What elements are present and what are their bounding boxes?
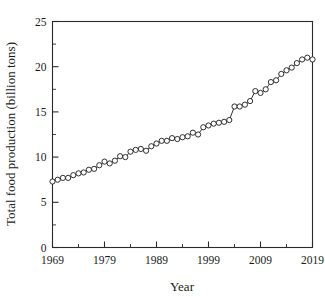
x-tick-label: 1989 — [145, 254, 168, 266]
y-tick-label: 20 — [35, 61, 47, 73]
y-tick-label: 25 — [35, 16, 47, 28]
data-point-marker — [71, 173, 76, 178]
data-point-marker — [66, 175, 71, 180]
y-tick-label: 10 — [35, 151, 47, 163]
data-point-marker — [92, 166, 97, 171]
y-tick-label: 15 — [35, 106, 47, 118]
data-point-marker — [144, 148, 149, 153]
data-point-marker — [216, 120, 221, 125]
food-production-line-chart: 0510152025 196919791989199920092019 Year… — [0, 0, 325, 297]
series-line-total-food-production — [53, 58, 313, 182]
data-point-marker — [149, 144, 154, 149]
data-point-marker — [284, 68, 289, 73]
x-tick-label: 1979 — [93, 254, 116, 266]
data-point-marker — [237, 104, 242, 109]
data-point-marker — [50, 179, 55, 184]
series-markers — [50, 55, 315, 184]
data-point-marker — [242, 102, 247, 107]
data-point-marker — [310, 57, 315, 62]
data-point-marker — [294, 60, 299, 65]
data-point-marker — [305, 55, 310, 60]
data-point-marker — [253, 89, 258, 94]
data-point-marker — [97, 163, 102, 168]
x-tick-label: 2019 — [301, 254, 324, 266]
data-point-marker — [222, 119, 227, 124]
data-point-marker — [55, 177, 60, 182]
data-point-marker — [190, 130, 195, 135]
data-point-marker — [112, 158, 117, 163]
chart-figure: 0510152025 196919791989199920092019 Year… — [0, 0, 325, 297]
data-point-marker — [170, 136, 175, 141]
data-point-marker — [268, 79, 273, 84]
data-point-marker — [86, 167, 91, 172]
data-point-marker — [201, 125, 206, 130]
x-axis-title: Year — [170, 279, 195, 294]
data-point-marker — [164, 138, 169, 143]
data-point-marker — [300, 57, 305, 62]
data-point-marker — [133, 147, 138, 152]
data-point-marker — [206, 123, 211, 128]
data-point-marker — [258, 90, 263, 95]
data-point-marker — [248, 98, 253, 103]
data-point-marker — [76, 171, 81, 176]
x-axis-tick-labels: 196919791989199920092019 — [41, 254, 324, 266]
x-tick-label: 1999 — [197, 254, 220, 266]
x-tick-label: 2009 — [249, 254, 272, 266]
data-point-marker — [279, 71, 284, 76]
data-point-marker — [232, 104, 237, 109]
data-point-marker — [227, 117, 232, 122]
x-axis-ticks — [53, 242, 313, 248]
data-point-marker — [289, 65, 294, 70]
data-point-marker — [128, 149, 133, 154]
data-point-marker — [175, 136, 180, 141]
x-tick-label: 1969 — [41, 254, 64, 266]
data-point-marker — [180, 135, 185, 140]
data-point-marker — [107, 161, 112, 166]
data-point-marker — [138, 146, 143, 151]
y-axis-title: Total food production (billion tons) — [3, 42, 18, 226]
y-axis-ticks — [53, 22, 59, 248]
data-point-marker — [102, 159, 107, 164]
data-point-marker — [274, 78, 279, 83]
y-axis-tick-labels: 0510152025 — [35, 16, 47, 254]
data-point-marker — [159, 138, 164, 143]
data-point-marker — [60, 175, 65, 180]
data-point-marker — [123, 155, 128, 160]
data-point-marker — [185, 134, 190, 139]
data-point-marker — [211, 121, 216, 126]
data-point-marker — [196, 132, 201, 137]
data-point-marker — [263, 87, 268, 92]
data-point-marker — [118, 154, 123, 159]
data-point-marker — [154, 141, 159, 146]
y-tick-label: 0 — [41, 242, 47, 254]
data-point-marker — [81, 170, 86, 175]
y-tick-label: 5 — [41, 196, 47, 208]
